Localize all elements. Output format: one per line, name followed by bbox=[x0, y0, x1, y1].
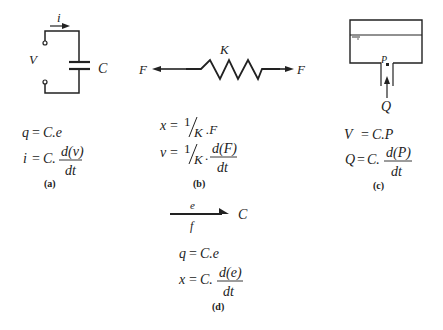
svg-text:V: V bbox=[344, 127, 354, 142]
svg-text:1: 1 bbox=[184, 141, 191, 156]
spring-zigzag-icon bbox=[186, 60, 280, 79]
force-right-label: F bbox=[296, 62, 306, 77]
numerator: d(e) bbox=[219, 265, 242, 281]
equation-b2: v = 1 K . d(F) dt bbox=[160, 141, 237, 175]
terminal-top bbox=[43, 41, 47, 45]
voltage-label: V bbox=[29, 52, 39, 67]
svg-text:=: = bbox=[361, 127, 369, 142]
bond-arrow-icon bbox=[170, 208, 229, 214]
equation-c1: V = C.P bbox=[344, 127, 394, 142]
svg-text:q: q bbox=[22, 125, 29, 140]
svg-text:=: = bbox=[189, 272, 197, 287]
element-label: C bbox=[238, 207, 248, 222]
svg-text:=: = bbox=[32, 151, 40, 166]
caption-d: (d) bbox=[212, 301, 224, 313]
denominator: dt bbox=[223, 284, 235, 299]
svg-text:.: . bbox=[205, 148, 208, 163]
svg-text:C.e: C.e bbox=[43, 125, 62, 140]
svg-text:C.: C. bbox=[200, 272, 213, 287]
svg-text:1: 1 bbox=[184, 114, 191, 129]
spring-constant-label: K bbox=[219, 42, 230, 57]
equation-c2: Q = C. d(P) dt bbox=[345, 145, 412, 179]
current-label: i bbox=[57, 10, 61, 25]
svg-text:C.e: C.e bbox=[200, 246, 219, 261]
pressure-label: P bbox=[380, 54, 387, 65]
svg-text:x: x bbox=[178, 272, 186, 287]
equation-d2: x = C. d(e) dt bbox=[178, 265, 243, 299]
panel-d-bond-graph: e f C q = C.e x = C. d(e) dt (d) bbox=[170, 199, 248, 313]
caption-b: (b) bbox=[193, 178, 205, 190]
capacitive-elements-diagram: i V C q = C.e i = C. d(v) dt (a) bbox=[0, 0, 443, 330]
svg-text:K: K bbox=[193, 152, 204, 167]
right-force-arrow-icon bbox=[280, 66, 294, 72]
svg-text:x: x bbox=[159, 118, 167, 133]
svg-text:=: = bbox=[170, 118, 178, 133]
caption-a: (a) bbox=[44, 178, 56, 190]
capacitor-plates-icon bbox=[69, 62, 90, 69]
svg-text:v: v bbox=[160, 145, 167, 160]
flow-label: f bbox=[190, 219, 195, 233]
flow-label: Q bbox=[381, 99, 391, 114]
panel-a-electrical-capacitor: i V C q = C.e i = C. d(v) dt (a) bbox=[22, 10, 108, 190]
left-force-arrow-icon bbox=[152, 66, 186, 72]
svg-text:C.P: C.P bbox=[372, 127, 394, 142]
equation-a2: i = C. d(v) dt bbox=[23, 144, 84, 178]
svg-text:.F: .F bbox=[206, 122, 218, 137]
denominator: dt bbox=[217, 160, 229, 175]
capacitor-label: C bbox=[98, 61, 108, 76]
svg-text:=: = bbox=[170, 145, 178, 160]
caption-c: (c) bbox=[373, 180, 384, 192]
numerator: d(v) bbox=[61, 144, 84, 160]
svg-text:i: i bbox=[23, 151, 27, 166]
svg-text:q: q bbox=[179, 246, 186, 261]
svg-text:C.: C. bbox=[43, 151, 56, 166]
svg-text:=: = bbox=[32, 125, 40, 140]
force-left-label: F bbox=[138, 62, 148, 77]
equation-b1: x = 1 K .F bbox=[159, 114, 218, 140]
svg-text:=: = bbox=[357, 152, 365, 167]
equation-d1: q = C.e bbox=[179, 246, 219, 261]
numerator: d(F) bbox=[212, 141, 237, 157]
svg-text:C.: C. bbox=[367, 152, 380, 167]
equation-a1: q = C.e bbox=[22, 125, 62, 140]
terminal-bottom bbox=[43, 80, 47, 84]
svg-text:=: = bbox=[189, 246, 197, 261]
denominator: dt bbox=[391, 164, 403, 179]
svg-text:Q: Q bbox=[345, 152, 355, 167]
numerator: d(P) bbox=[386, 145, 411, 161]
flow-arrow-icon bbox=[384, 76, 390, 98]
denominator: dt bbox=[65, 163, 77, 178]
effort-label: e bbox=[190, 199, 195, 211]
panel-c-fluid-tank: P Q V = C.P Q = C. d(P) dt (c) bbox=[344, 20, 422, 192]
svg-text:K: K bbox=[193, 125, 204, 140]
panel-b-mechanical-spring: K F F x = 1 K .F v = 1 K . d(F) dt (b) bbox=[138, 42, 306, 190]
